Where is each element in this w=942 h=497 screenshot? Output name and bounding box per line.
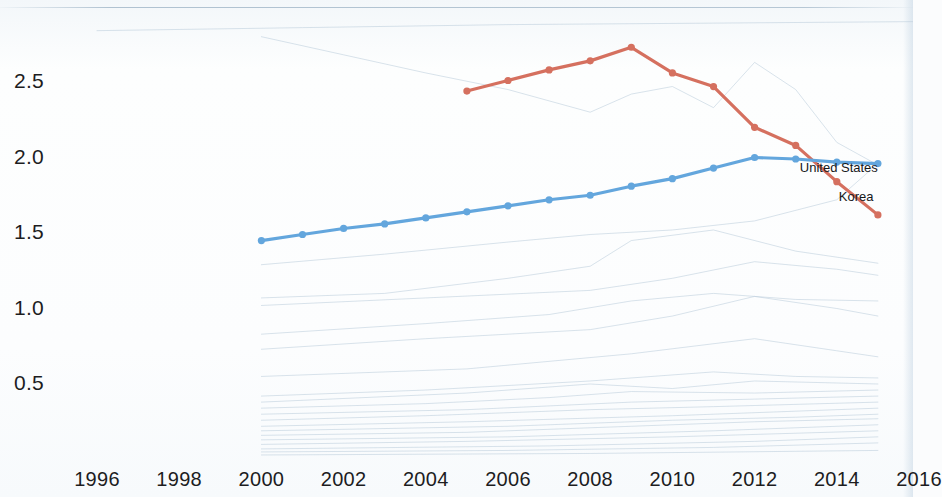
background-series-line (97, 22, 913, 31)
data-point-marker[interactable] (628, 44, 635, 51)
data-point-marker[interactable] (546, 196, 553, 203)
background-series-line (261, 230, 878, 298)
data-point-marker[interactable] (504, 77, 511, 84)
data-point-marker[interactable] (258, 237, 265, 244)
data-point-marker[interactable] (422, 214, 429, 221)
data-point-marker[interactable] (751, 124, 758, 131)
data-point-marker[interactable] (340, 225, 347, 232)
background-series-line (261, 443, 878, 452)
data-point-marker[interactable] (874, 211, 881, 218)
background-series-line (261, 381, 878, 402)
series-label-united-states: United States (800, 160, 878, 175)
data-point-marker[interactable] (792, 155, 799, 162)
data-point-marker[interactable] (669, 69, 676, 76)
x-axis-tick-label: 1996 (74, 468, 120, 491)
series-korea[interactable] (463, 44, 881, 219)
data-point-marker[interactable] (710, 83, 717, 90)
background-series-line (261, 164, 878, 265)
x-axis-tick-label: 2000 (239, 468, 285, 491)
series-label-korea: Korea (839, 189, 874, 204)
background-series-line (261, 425, 878, 440)
x-axis-tick-label: 2006 (485, 468, 531, 491)
x-axis-tick-label: 2016 (896, 468, 942, 491)
data-point-marker[interactable] (504, 202, 511, 209)
y-axis-tick-label: 1.5 (14, 220, 44, 244)
data-point-marker[interactable] (587, 192, 594, 199)
data-point-marker[interactable] (546, 66, 553, 73)
series-line (261, 158, 878, 241)
data-point-marker[interactable] (463, 87, 470, 94)
data-point-marker[interactable] (628, 183, 635, 190)
data-point-marker[interactable] (751, 154, 758, 161)
data-point-marker[interactable] (710, 164, 717, 171)
y-axis-tick-label: 1.0 (14, 296, 44, 320)
data-point-marker[interactable] (833, 178, 840, 185)
y-axis-tick-label: 2.5 (14, 69, 44, 93)
data-point-marker[interactable] (381, 220, 388, 227)
background-series-line (261, 419, 878, 436)
y-axis-tick-label: 0.5 (14, 371, 44, 395)
x-axis-tick-label: 2008 (567, 468, 613, 491)
x-axis-tick-label: 2004 (403, 468, 449, 491)
y-axis-tick-label: 2.0 (14, 145, 44, 169)
x-axis-tick-label: 1998 (156, 468, 202, 491)
x-axis-tick-label: 2002 (321, 468, 367, 491)
background-series-line (261, 339, 878, 377)
x-axis-tick-label: 2012 (732, 468, 778, 491)
x-axis-tick-label: 2014 (814, 468, 860, 491)
data-point-marker[interactable] (463, 208, 470, 215)
background-series-line (261, 293, 878, 334)
data-point-marker[interactable] (587, 57, 594, 64)
background-series-line (261, 296, 878, 349)
data-point-marker[interactable] (669, 175, 676, 182)
data-point-marker[interactable] (299, 231, 306, 238)
series-united-states[interactable] (258, 154, 882, 244)
x-axis-tick-label: 2010 (650, 468, 696, 491)
background-series-line (261, 37, 878, 165)
background-series-line (261, 431, 878, 445)
data-point-marker[interactable] (792, 142, 799, 149)
